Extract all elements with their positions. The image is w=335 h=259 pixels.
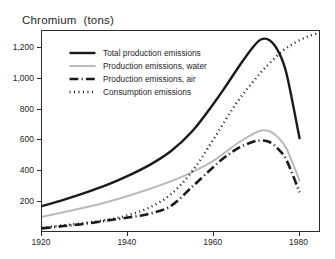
x-tick-label: 1940 [107, 237, 147, 247]
page-title: Chromium (tons) [22, 14, 114, 26]
legend-item[interactable]: Total production emissions [69, 46, 207, 59]
y-tick-label: 1,200 [0, 42, 34, 52]
x-tick-mark [127, 232, 128, 236]
x-tick-mark [299, 232, 300, 236]
legend-item[interactable]: Production emissions, air [69, 72, 207, 85]
chart-figure: Chromium (tons) 2004006008001,0001,200 1… [0, 0, 335, 259]
legend-label: Production emissions, air [103, 74, 196, 84]
y-tick-label: 600 [0, 134, 34, 144]
legend-line-swatch [69, 87, 96, 97]
y-tick-label: 400 [0, 165, 34, 175]
legend-label: Production emissions, water [103, 61, 207, 71]
series-line [42, 130, 300, 217]
legend-item[interactable]: Consumption emissions [69, 85, 207, 98]
legend-line-swatch [69, 61, 96, 71]
legend-label: Total production emissions [103, 48, 201, 58]
series-line [42, 140, 300, 228]
legend: Total production emissionsProduction emi… [69, 46, 207, 98]
y-tick-label: 800 [0, 104, 34, 114]
x-tick-label: 1980 [279, 237, 319, 247]
x-tick-label: 1920 [21, 237, 61, 247]
y-tick-label: 200 [0, 196, 34, 206]
x-tick-mark [213, 232, 214, 236]
legend-label: Consumption emissions [103, 87, 191, 97]
legend-item[interactable]: Production emissions, water [69, 59, 207, 72]
legend-line-swatch [69, 48, 96, 58]
x-tick-label: 1960 [193, 237, 233, 247]
x-tick-mark [41, 232, 42, 236]
legend-line-swatch [69, 74, 96, 84]
y-tick-label: 1,000 [0, 73, 34, 83]
